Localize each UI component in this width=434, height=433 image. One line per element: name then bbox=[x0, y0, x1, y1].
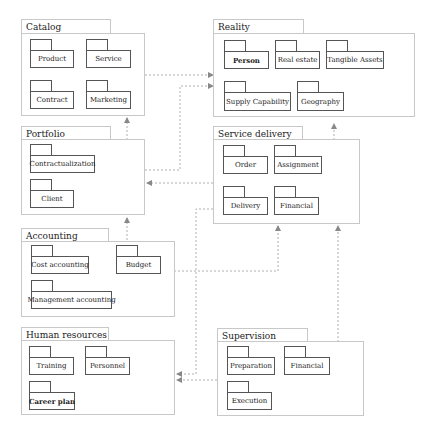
package-tab: Human resources bbox=[21, 327, 109, 341]
package-tab: Catalog bbox=[21, 19, 111, 34]
package-tab: Service delivery bbox=[213, 126, 303, 140]
package-tab: Portfolio bbox=[21, 126, 111, 140]
package-tab: Accounting bbox=[21, 228, 109, 242]
package-tab: Supervision bbox=[217, 328, 308, 342]
package-tab: Reality bbox=[213, 19, 304, 34]
